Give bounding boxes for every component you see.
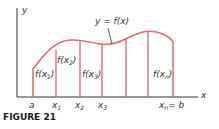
label-f-x3: f(x3) [82,70,101,80]
label-f-x2: f(x2) [57,56,76,66]
curve-f-of-x [33,31,173,97]
tick-label-x3: x3 [98,101,107,111]
tick-x3-sub: 3 [103,104,107,111]
figure-caption: FIGURE 21 [3,112,56,122]
curve-label: y = f(x) [95,17,129,26]
tick-x2-sub: 2 [80,104,84,111]
label-f-x1: f(x1) [35,70,54,80]
y-axis-label: y [22,6,27,15]
label-f-x2-post: ) [73,55,77,65]
label-f-x2-pre: f( [57,55,64,65]
label-f-x1-pre: f( [35,69,42,79]
label-f-x1-post: ) [51,69,55,79]
tick-xn-suffix: = b [168,100,184,110]
riemann-sum-figure: y x y = f(x) f(x1) f(x2) f(x3) f(xn) a x… [0,0,219,129]
tick-label-x2: x2 [75,101,84,111]
tick-label-x1: x1 [52,101,61,111]
label-f-xn: f(xn) [153,70,172,80]
curve-label-pointer [108,28,112,44]
x-axis-label: x [201,91,206,100]
label-f-xn-pre: f( [153,69,160,79]
tick-label-a: a [29,101,35,110]
label-f-x3-post: ) [98,69,102,79]
tick-label-xn-b: xn= b [159,101,184,111]
label-f-xn-post: ) [169,69,173,79]
label-f-x3-pre: f( [82,69,89,79]
tick-x1-sub: 1 [57,104,61,111]
